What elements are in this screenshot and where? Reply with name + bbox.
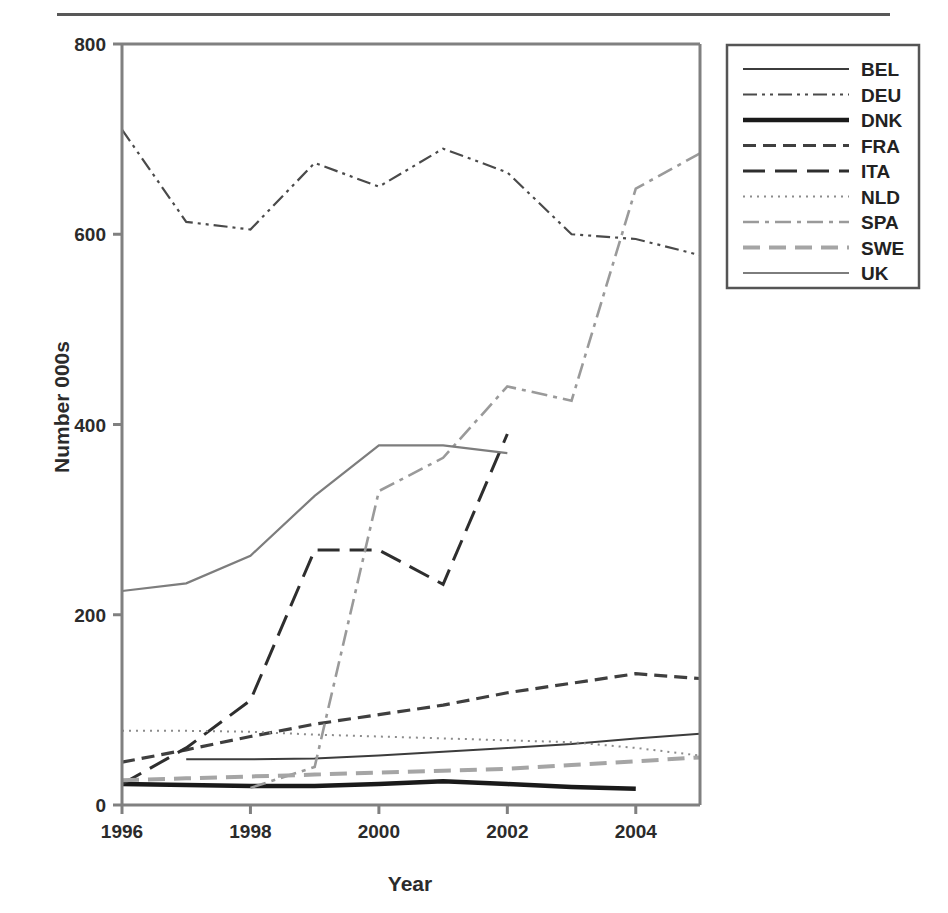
legend-label-nld: NLD xyxy=(861,187,900,208)
series-line-fra xyxy=(122,674,700,762)
legend-label-spa: SPA xyxy=(861,212,899,233)
y-tick-label: 600 xyxy=(74,224,106,245)
y-tick-label: 200 xyxy=(74,605,106,626)
y-tick-label: 400 xyxy=(74,415,106,436)
series-line-dnk xyxy=(122,781,636,789)
axes: 020040060080019961998200020022004 xyxy=(74,34,700,842)
legend-label-bel: BEL xyxy=(861,59,899,80)
plot-area xyxy=(122,130,700,789)
series-line-nld xyxy=(122,731,700,756)
series-line-deu xyxy=(122,130,700,256)
legend-label-uk: UK xyxy=(861,263,889,284)
series-line-spa xyxy=(250,153,700,787)
line-chart-figure: 020040060080019961998200020022004 BELDEU… xyxy=(0,0,948,913)
legend-label-ita: ITA xyxy=(861,161,890,182)
x-tick-label: 2004 xyxy=(615,821,658,842)
x-tick-label: 2002 xyxy=(486,821,528,842)
legend-label-swe: SWE xyxy=(861,238,904,259)
legend-label-dnk: DNK xyxy=(861,110,902,131)
chart-svg: 020040060080019961998200020022004 BELDEU… xyxy=(0,0,948,913)
series-line-uk xyxy=(122,445,507,591)
series-line-swe xyxy=(122,757,700,780)
legend-label-fra: FRA xyxy=(861,136,900,157)
y-tick-label: 0 xyxy=(95,795,106,816)
x-tick-label: 1998 xyxy=(229,821,271,842)
y-tick-label: 800 xyxy=(74,34,106,55)
series-line-bel xyxy=(186,734,700,760)
legend-label-deu: DEU xyxy=(861,85,901,106)
x-tick-label: 1996 xyxy=(101,821,143,842)
x-tick-label: 2000 xyxy=(358,821,400,842)
chart-legend: BELDEUDNKFRAITANLDSPASWEUK xyxy=(727,45,919,288)
